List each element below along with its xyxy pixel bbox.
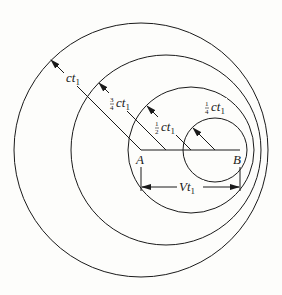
svg-text:2: 2 [155,128,159,136]
svg-text:3: 3 [110,96,114,104]
radius-arrow-quarter [193,128,215,150]
svg-text:4: 4 [110,104,114,112]
wavefront-diagram: ct1 3 4 ct1 1 2 ct1 1 4 ct1 A B Vt1 [0,0,282,295]
point-a-label: A [135,152,144,167]
point-b-label: B [233,152,241,167]
svg-text:4: 4 [205,108,209,116]
svg-text:1: 1 [155,120,159,128]
svg-text:1: 1 [205,100,209,108]
